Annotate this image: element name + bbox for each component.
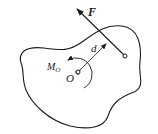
point-o — [76, 70, 80, 74]
moment-subscript: O — [55, 66, 60, 74]
force-application-point — [123, 54, 127, 58]
moment-of-force-diagram: F d MO O — [0, 0, 158, 134]
moment-label: MO — [47, 62, 60, 74]
force-label: F — [88, 6, 96, 18]
diagram-graphics — [0, 0, 158, 134]
rigid-body-outline — [20, 26, 141, 128]
point-o-label: O — [66, 73, 74, 84]
distance-label: d — [91, 43, 97, 54]
